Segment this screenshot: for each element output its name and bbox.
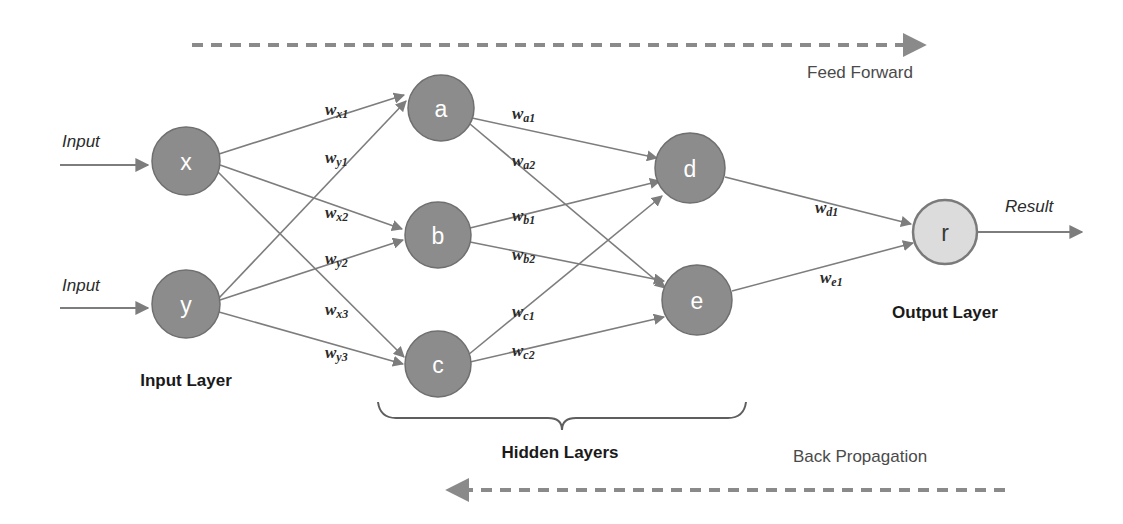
brace-path: [378, 402, 746, 430]
node-y-label: y: [180, 292, 192, 318]
weight-label-wa1: wa1: [512, 104, 535, 126]
node-x[interactable]: x: [152, 127, 220, 195]
input-label-top: Input: [62, 132, 101, 151]
edge-y-b: [220, 240, 403, 300]
node-d-label: d: [684, 156, 697, 182]
weight-label-wy3: wy3: [325, 343, 348, 365]
node-c[interactable]: c: [405, 331, 471, 397]
edge-y-c: [219, 312, 403, 364]
node-r-label: r: [941, 220, 949, 246]
weight-label-wx1: wx1: [325, 100, 348, 122]
node-d[interactable]: d: [655, 133, 725, 203]
weight-label-wc2: wc2: [512, 341, 535, 363]
node-e[interactable]: e: [662, 265, 732, 335]
node-a-label: a: [435, 96, 448, 122]
edges-input-hidden1: [218, 95, 406, 364]
input-layer-label: Input Layer: [140, 371, 232, 390]
edges-hidden2-output: [725, 177, 1082, 291]
edge-a-e: [470, 124, 665, 288]
edge-b-e: [470, 242, 664, 281]
weight-label-wx3: wx3: [325, 300, 348, 322]
hidden-layers-label: Hidden Layers: [501, 443, 618, 462]
back-propagation-label: Back Propagation: [793, 447, 927, 466]
weight-labels: wx1 wy1 wx2 wy2 wx3 wy3 wa1 wa2 wb1 wb2 …: [325, 100, 843, 365]
node-x-label: x: [180, 149, 192, 175]
node-b-label: b: [432, 223, 445, 249]
diagram-canvas: Feed Forward Back Propagation: [0, 0, 1123, 524]
weight-label-wa2: wa2: [512, 151, 535, 173]
result-label: Result: [1005, 197, 1054, 216]
weight-label-wb1: wb1: [512, 206, 535, 228]
edge-x-a: [219, 95, 404, 154]
node-b[interactable]: b: [405, 202, 471, 268]
edge-a-d: [472, 118, 657, 158]
weight-label-wc1: wc1: [512, 302, 535, 324]
weight-label-wd1: wd1: [815, 198, 838, 220]
edge-y-a: [219, 101, 406, 298]
feed-forward-label: Feed Forward: [807, 63, 913, 82]
edge-x-b: [220, 165, 402, 229]
weight-label-wy2: wy2: [325, 249, 348, 271]
weight-label-wy1: wy1: [325, 148, 348, 170]
input-label-bottom: Input: [62, 276, 101, 295]
edge-x-c: [218, 172, 404, 357]
feed-forward-arrow: Feed Forward: [192, 45, 922, 82]
hidden-layers-brace: [378, 402, 746, 430]
edge-c-e: [470, 317, 664, 362]
node-c-label: c: [432, 352, 444, 378]
node-e-label: e: [691, 288, 704, 314]
weight-label-we1: we1: [820, 268, 843, 290]
weight-label-wb2: wb2: [512, 245, 535, 267]
node-y[interactable]: y: [152, 270, 220, 338]
node-r[interactable]: r: [913, 200, 977, 264]
neural-network-diagram: Feed Forward Back Propagation: [0, 0, 1123, 524]
node-a[interactable]: a: [408, 75, 474, 141]
edges-hidden1-hidden2: [468, 118, 665, 362]
output-layer-label: Output Layer: [892, 303, 998, 322]
